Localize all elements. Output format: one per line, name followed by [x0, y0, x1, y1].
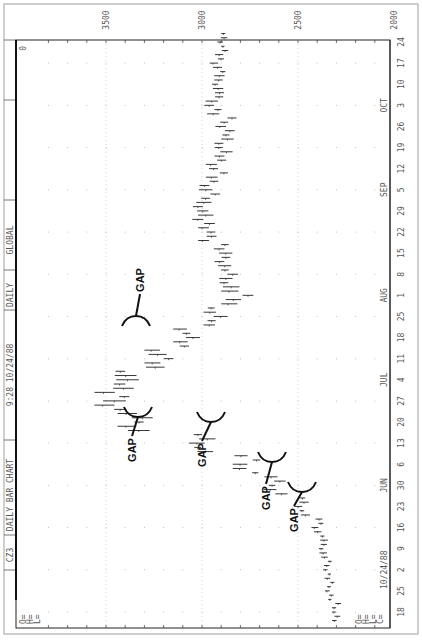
grid-dot [278, 274, 279, 275]
gap-label: GAP [134, 268, 146, 292]
grid-dot [163, 569, 164, 570]
grid-dot [163, 485, 164, 486]
grid-dot [202, 63, 203, 64]
time-tick-label: 30 [397, 480, 406, 490]
grid-dot [221, 569, 222, 570]
grid-dot [336, 569, 337, 570]
grid-dot [182, 400, 183, 401]
grid-dot [259, 232, 260, 233]
grid-dot [336, 63, 337, 64]
grid-dot [278, 443, 279, 444]
grid-dot [163, 189, 164, 190]
grid-dot [355, 612, 356, 613]
grid-dot [202, 232, 203, 233]
grid-dot [259, 400, 260, 401]
price-tick-label: 2500 [294, 10, 303, 29]
time-tick-label: 18 [397, 607, 406, 617]
grid-dot [48, 274, 49, 275]
time-tick-label: 29 [397, 206, 406, 216]
grid-dot [48, 400, 49, 401]
grid-dot [163, 274, 164, 275]
grid-dot [317, 189, 318, 190]
price-tick-label: 3000 [198, 10, 207, 29]
grid-dot [67, 569, 68, 570]
grid-dot [67, 105, 68, 106]
grid-dot [298, 274, 299, 275]
grid-dot [125, 189, 126, 190]
grid-dot [182, 63, 183, 64]
time-tick-label: 2 [397, 567, 406, 572]
grid-dot [240, 400, 241, 401]
grid-dot [355, 527, 356, 528]
grid-dot [259, 105, 260, 106]
grid-dot [240, 358, 241, 359]
grid-dot [221, 274, 222, 275]
grid-dot [278, 612, 279, 613]
grid-dot [86, 274, 87, 275]
time-tick-label: 1 [397, 293, 406, 298]
grid-dot [67, 358, 68, 359]
grid-dot [336, 612, 337, 613]
grid-dot [144, 443, 145, 444]
grid-dot [298, 63, 299, 64]
gap-bracket [124, 407, 152, 417]
grid-dot [106, 527, 107, 528]
grid-dot [374, 105, 375, 106]
grid-dot [67, 316, 68, 317]
grid-dot [278, 527, 279, 528]
grid-dot [317, 147, 318, 148]
grid-dot [374, 485, 375, 486]
time-tick-label: 5 [397, 187, 406, 192]
grid-dot [202, 485, 203, 486]
grid-dot [163, 358, 164, 359]
left-legend-item: L= [33, 614, 42, 624]
grid-dot [240, 232, 241, 233]
grid-dot [125, 316, 126, 317]
grid-dot [355, 358, 356, 359]
grid-dot [374, 232, 375, 233]
grid-dot [221, 105, 222, 106]
grid-dot [336, 358, 337, 359]
grid-dot [67, 400, 68, 401]
time-tick-label: 11 [397, 354, 406, 364]
gap-label: GAP [260, 486, 272, 510]
grid-dot [125, 569, 126, 570]
grid-dot [48, 232, 49, 233]
grid-dot [355, 443, 356, 444]
grid-dot [86, 63, 87, 64]
grid-dot [48, 612, 49, 613]
header-chart-name: DAILY BAR CHART [6, 459, 15, 531]
grid-dot [374, 358, 375, 359]
grid-dot [355, 400, 356, 401]
grid-dot [278, 400, 279, 401]
grid-dot [163, 316, 164, 317]
grid-dot [48, 147, 49, 148]
grid-dot [317, 400, 318, 401]
grid-dot [202, 274, 203, 275]
header-period: DAILY [6, 283, 15, 307]
grid-dot [221, 232, 222, 233]
gap-label: GAP [288, 508, 300, 532]
grid-dot [278, 232, 279, 233]
month-label: JUL [380, 372, 389, 387]
grid-dot [240, 612, 241, 613]
gap-annotations: GAPGAPGAPGAPGAP [122, 268, 316, 532]
grid-dot [221, 400, 222, 401]
time-tick-label: 23 [397, 501, 406, 511]
grid-dot [202, 569, 203, 570]
grid-dot [163, 527, 164, 528]
grid-dot [317, 105, 318, 106]
daily-bar-chart: CZ3DAILY BAR CHART9:28 10/24/88DAILYGLOB… [0, 0, 422, 640]
grid-dot [182, 358, 183, 359]
grid-dot [106, 147, 107, 148]
grid-dot [144, 147, 145, 148]
grid-dot [240, 485, 241, 486]
grid-dot [259, 443, 260, 444]
grid-dot [240, 63, 241, 64]
grid-dot [317, 612, 318, 613]
plot-frame [16, 40, 390, 628]
header-symbol: CZ3 [6, 548, 15, 563]
grid-dot [86, 105, 87, 106]
time-tick-label: 24 [397, 37, 406, 47]
grid-dot [278, 147, 279, 148]
